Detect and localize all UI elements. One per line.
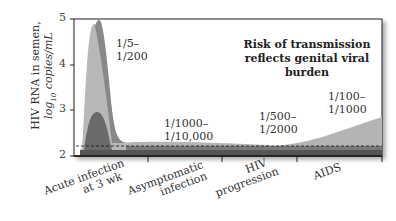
y-axis-label-line2: log10 copies/mL bbox=[42, 0, 60, 161]
annotation-acute: 1/5–1/200 bbox=[116, 37, 148, 63]
y-axis-label-line1: HIV RNA in semen, bbox=[29, 0, 42, 161]
y-axis-label: HIV RNA in semen, log10 copies/mL bbox=[29, 0, 60, 161]
chart-title-line2: reflects genital viral burden bbox=[222, 52, 392, 80]
annotation-progression: 1/500–1/2000 bbox=[259, 110, 298, 136]
chart-title: Risk of transmission reflects genital vi… bbox=[222, 38, 392, 80]
annotation-aids: 1/100–1/1000 bbox=[328, 90, 367, 116]
annotation-asymptomatic: 1/1000–1/10,000 bbox=[164, 117, 213, 143]
chart: 5 4 3 2 HIV RNA in semen, log10 copies/m… bbox=[0, 0, 396, 221]
chart-title-line1: Risk of transmission bbox=[222, 38, 392, 52]
